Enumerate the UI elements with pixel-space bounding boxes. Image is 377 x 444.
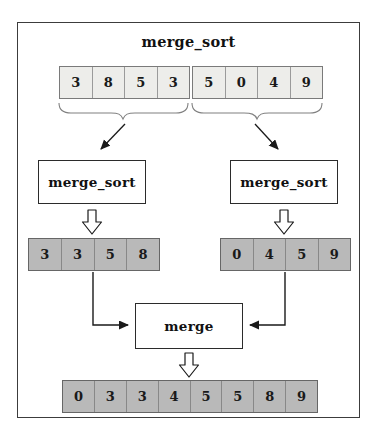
array-cell: 3	[60, 67, 93, 98]
array-cell: 5	[125, 67, 158, 98]
array-cell: 3	[127, 381, 159, 412]
array-cell: 3	[62, 239, 95, 270]
result-array: 0 3 3 4 5 5 8 9	[62, 380, 318, 413]
array-cell: 8	[93, 67, 126, 98]
array-cell: 5	[222, 381, 254, 412]
array-cell: 0	[221, 239, 254, 270]
diagram-title: merge_sort	[0, 33, 377, 50]
array-cell: 4	[159, 381, 191, 412]
array-cell: 3	[29, 239, 62, 270]
array-cell: 8	[254, 381, 286, 412]
merge-node: merge	[135, 303, 243, 349]
array-cell: 4	[254, 239, 287, 270]
array-cell: 5	[95, 239, 128, 270]
array-cell: 0	[63, 381, 95, 412]
left-sorted-array: 3 3 5 8	[28, 238, 160, 271]
array-cell: 5	[286, 239, 319, 270]
input-array-right-half: 5 0 4 9	[192, 66, 323, 99]
array-cell: 9	[291, 67, 323, 98]
array-cell: 8	[127, 239, 159, 270]
array-cell: 3	[158, 67, 190, 98]
input-array-left-half: 3 8 5 3	[59, 66, 190, 99]
merge-sort-diagram: merge_sort 3 8 5 3 5 0 4 9 merge_sort me…	[0, 0, 377, 444]
merge-sort-right-node: merge_sort	[230, 160, 338, 204]
merge-sort-left-node: merge_sort	[38, 160, 146, 204]
array-cell: 5	[191, 381, 223, 412]
array-cell: 3	[95, 381, 127, 412]
array-cell: 9	[286, 381, 317, 412]
array-cell: 0	[226, 67, 259, 98]
right-sorted-array: 0 4 5 9	[220, 238, 351, 271]
array-cell: 9	[319, 239, 351, 270]
array-cell: 4	[258, 67, 291, 98]
array-cell: 5	[193, 67, 226, 98]
